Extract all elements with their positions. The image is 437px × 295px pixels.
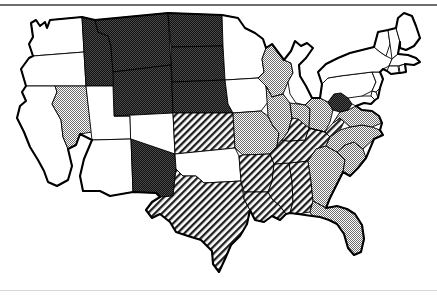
state-WY[interactable] (113, 65, 173, 116)
state-SD[interactable] (171, 46, 225, 82)
figure-root (0, 0, 437, 295)
state-FL[interactable] (310, 201, 364, 255)
state-ND[interactable] (168, 13, 223, 47)
state-AR[interactable] (239, 154, 274, 192)
state-NE[interactable] (172, 80, 233, 113)
state-KS[interactable] (173, 113, 235, 154)
bottom-divider-rule (0, 290, 437, 291)
state-IA[interactable] (225, 78, 268, 113)
us-choropleth-map (0, 6, 437, 288)
